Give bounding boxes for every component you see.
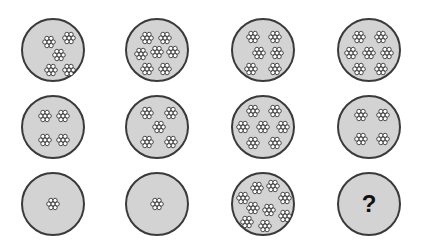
flower-icon [236,120,250,134]
flower-icon [56,133,70,147]
flower-icon [140,31,154,45]
flower-icon [246,136,260,150]
flower-icon [150,197,164,211]
flower-icon [166,45,180,59]
flower-icon [250,181,264,195]
puzzle-circle [337,95,401,159]
flower-icon [262,203,276,217]
flower-icon [240,215,254,229]
flower-icon [56,109,70,123]
flower-icon [268,104,282,118]
flower-icon [158,62,172,76]
flower-icon [140,135,154,149]
flower-icon [278,209,292,223]
puzzle-circle [337,18,401,82]
puzzle-circle [231,95,295,159]
flower-icon [158,31,172,45]
flower-icon [268,30,282,44]
puzzle-circle [125,172,189,236]
flower-icon [352,62,366,76]
question-mark: ? [339,174,399,234]
flower-icon [374,30,388,44]
flower-icon [44,63,58,77]
flower-icon [150,45,164,59]
flower-icon [52,48,66,62]
flower-icon [352,30,366,44]
flower-icon [140,62,154,76]
flower-icon [278,191,292,205]
puzzle-circle [231,18,295,82]
flower-icon [38,133,52,147]
flower-icon [140,106,154,120]
flower-icon [152,120,166,134]
flower-icon [252,46,266,60]
flower-icon [362,46,376,60]
flower-icon [62,31,76,45]
flower-icon [164,135,178,149]
flower-icon [268,62,282,76]
flower-icon [376,132,390,146]
puzzle-circle [125,18,189,82]
flower-icon [246,201,260,215]
flower-icon [164,106,178,120]
flower-icon [374,62,388,76]
flower-icon [62,63,76,77]
flower-icon [256,120,270,134]
puzzle-circle [21,95,85,159]
flower-icon [258,219,272,233]
flower-icon [244,62,258,76]
flower-icon [46,197,60,211]
flower-icon [380,46,394,60]
flower-icon [376,108,390,122]
puzzle-circle [21,18,85,82]
flower-icon [270,46,284,60]
flower-icon [134,47,148,61]
puzzle-circle [21,172,85,236]
flower-icon [42,35,56,49]
flower-icon [38,109,52,123]
puzzle-circle [231,172,295,236]
answer-circle: ? [337,172,401,236]
flower-icon [246,104,260,118]
flower-icon [276,120,290,134]
flower-icon [344,46,358,60]
flower-icon [354,132,368,146]
flower-icon [246,30,260,44]
puzzle-circle [125,95,189,159]
flower-icon [354,108,368,122]
flower-icon [268,136,282,150]
